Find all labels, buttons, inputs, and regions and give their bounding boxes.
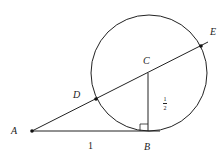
fraction-bar	[163, 103, 167, 104]
point-a-dot	[30, 129, 34, 133]
fraction-denominator: 2	[164, 105, 167, 111]
fraction-numerator: 1	[164, 96, 167, 102]
secant-ae	[32, 42, 208, 131]
geometry-diagram: A B C D E 1 1 2	[0, 0, 224, 158]
label-a: A	[11, 126, 17, 136]
point-e-dot	[199, 44, 203, 48]
label-d: D	[73, 90, 80, 100]
point-d-dot	[94, 97, 98, 101]
diagram-drawing	[0, 0, 224, 158]
circle	[91, 15, 207, 131]
length-ab-label: 1	[88, 141, 93, 151]
label-c: C	[143, 56, 150, 66]
length-cb-label: 1 2	[163, 96, 167, 111]
label-e: E	[210, 27, 216, 37]
label-b: B	[144, 142, 150, 152]
right-angle-mark	[140, 124, 148, 131]
